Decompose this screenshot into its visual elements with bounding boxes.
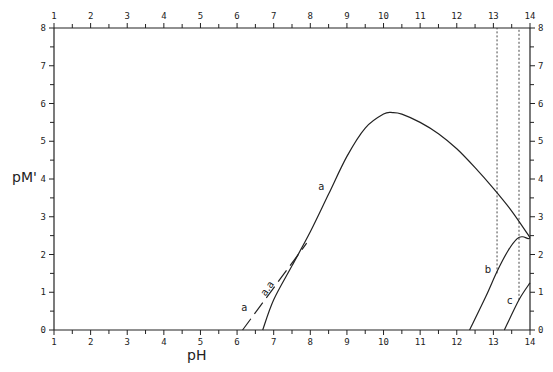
x-tick-label-top: 6 bbox=[234, 11, 239, 21]
dashed-line-annotation: a.a bbox=[258, 279, 276, 298]
x-tick-label-top: 9 bbox=[344, 11, 349, 21]
y-tick-label-left: 7 bbox=[41, 61, 46, 71]
x-tick-label-bottom: 6 bbox=[234, 337, 239, 347]
x-tick-label-bottom: 14 bbox=[525, 337, 536, 347]
x-tick-label-top: 2 bbox=[88, 11, 93, 21]
x-tick-label-bottom: 5 bbox=[198, 337, 203, 347]
x-tick-label-bottom: 2 bbox=[88, 337, 93, 347]
curve-c bbox=[504, 283, 530, 330]
x-tick-label-bottom: 3 bbox=[125, 337, 130, 347]
x-tick-label-bottom: 10 bbox=[378, 337, 389, 347]
y-tick-label-left: 1 bbox=[41, 287, 46, 297]
y-tick-label-right: 7 bbox=[538, 61, 543, 71]
y-tick-label-left: 4 bbox=[41, 174, 46, 184]
x-tick-label-top: 10 bbox=[378, 11, 389, 21]
annotations: aabca.a bbox=[241, 181, 512, 313]
y-tick-label-right: 6 bbox=[538, 99, 543, 109]
curve-a bbox=[263, 112, 530, 330]
y-tick-label-right: 4 bbox=[538, 174, 543, 184]
x-tick-label-top: 13 bbox=[488, 11, 499, 21]
curve-label-a: a bbox=[241, 302, 247, 313]
x-tick-label-bottom: 9 bbox=[344, 337, 349, 347]
x-tick-label-top: 4 bbox=[161, 11, 166, 21]
curve-label-a: a bbox=[318, 181, 324, 192]
x-tick-label-top: 1 bbox=[51, 11, 56, 21]
x-tick-label-top: 14 bbox=[525, 11, 536, 21]
x-tick-label-top: 12 bbox=[451, 11, 462, 21]
x-tick-label-bottom: 7 bbox=[271, 337, 276, 347]
x-tick-label-bottom: 11 bbox=[415, 337, 426, 347]
x-tick-label-bottom: 8 bbox=[308, 337, 313, 347]
y-tick-label-left: 2 bbox=[41, 250, 46, 260]
y-tick-label-right: 5 bbox=[538, 136, 543, 146]
curve-b bbox=[470, 237, 530, 330]
x-tick-label-top: 3 bbox=[125, 11, 130, 21]
y-tick-label-right: 8 bbox=[538, 23, 543, 33]
x-tick-label-bottom: 12 bbox=[451, 337, 462, 347]
chart: 1122334455667788991010111112121313141400… bbox=[0, 0, 553, 372]
curves bbox=[243, 112, 530, 330]
plot-frame bbox=[54, 28, 530, 330]
x-tick-label-bottom: 4 bbox=[161, 337, 166, 347]
y-tick-label-left: 8 bbox=[41, 23, 46, 33]
x-tick-label-top: 7 bbox=[271, 11, 276, 21]
y-tick-label-left: 6 bbox=[41, 99, 46, 109]
y-tick-label-right: 0 bbox=[538, 325, 543, 335]
curve-label-b: b bbox=[485, 264, 491, 275]
y-tick-label-left: 5 bbox=[41, 136, 46, 146]
x-tick-label-bottom: 1 bbox=[51, 337, 56, 347]
x-tick-label-top: 8 bbox=[308, 11, 313, 21]
axis-ticks: 1122334455667788991010111112121313141400… bbox=[41, 11, 544, 347]
x-tick-label-bottom: 13 bbox=[488, 337, 499, 347]
y-tick-label-left: 0 bbox=[41, 325, 46, 335]
x-tick-label-top: 5 bbox=[198, 11, 203, 21]
x-axis-title: pH bbox=[187, 347, 206, 363]
y-tick-label-right: 1 bbox=[538, 287, 543, 297]
y-tick-label-right: 3 bbox=[538, 212, 543, 222]
y-tick-label-right: 2 bbox=[538, 250, 543, 260]
x-tick-label-top: 11 bbox=[415, 11, 426, 21]
curve-label-c: c bbox=[507, 295, 513, 306]
y-tick-label-left: 3 bbox=[41, 212, 46, 222]
reference-lines bbox=[497, 28, 519, 300]
y-axis-title: pM' bbox=[12, 169, 37, 185]
